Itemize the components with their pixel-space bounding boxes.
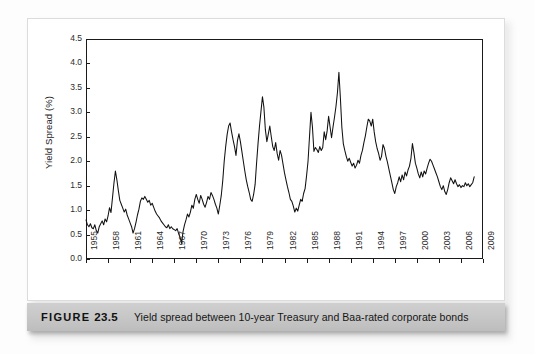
- y-tick-mark: [86, 88, 90, 89]
- figure-container: Yield Spread (%) 0.00.51.01.52.02.53.03.…: [0, 0, 535, 354]
- y-axis-ticks: 0.00.51.01.52.02.53.03.54.04.5: [48, 19, 82, 302]
- x-tick-mark: [285, 259, 286, 263]
- x-tick-mark: [196, 259, 197, 263]
- x-tick-label: 2009: [487, 231, 496, 265]
- x-tick-mark: [351, 259, 352, 263]
- x-tick-label: 1988: [333, 231, 342, 265]
- x-tick-label: 2000: [421, 231, 430, 265]
- x-tick-mark: [461, 259, 462, 263]
- y-tick-label: 3.0: [70, 107, 82, 116]
- x-tick-mark: [373, 259, 374, 263]
- y-tick-mark: [86, 39, 90, 40]
- y-tick-label: 3.5: [70, 83, 82, 92]
- x-tick-mark: [262, 259, 263, 263]
- x-tick-label: 1994: [377, 231, 386, 265]
- x-tick-mark: [152, 259, 153, 263]
- y-tick-mark: [86, 210, 90, 211]
- y-tick-mark: [86, 137, 90, 138]
- y-tick-label: 4.5: [70, 34, 82, 43]
- y-tick-mark: [86, 112, 90, 113]
- x-tick-mark: [417, 259, 418, 263]
- y-tick-label: 4.0: [70, 58, 82, 67]
- x-tick-mark: [174, 259, 175, 263]
- x-tick-label: 1982: [289, 231, 298, 265]
- x-tick-mark: [307, 259, 308, 263]
- x-tick-label: 1967: [178, 231, 187, 265]
- x-tick-mark: [240, 259, 241, 263]
- chart-panel: Yield Spread (%) 0.00.51.01.52.02.53.03.…: [27, 18, 505, 301]
- x-tick-label: 1985: [311, 231, 320, 265]
- y-tick-label: 1.0: [70, 205, 82, 214]
- x-tick-label: 2006: [465, 231, 474, 265]
- series-line-chart: [86, 39, 483, 259]
- caption-text: Yield spread between 10-year Treasury an…: [134, 311, 469, 323]
- x-tick-label: 1964: [156, 231, 165, 265]
- y-tick-mark: [86, 259, 90, 260]
- yield-spread-line: [86, 72, 474, 243]
- y-tick-label: 1.5: [70, 181, 82, 190]
- y-tick-label: 0.0: [70, 254, 82, 263]
- x-tick-mark: [108, 259, 109, 263]
- x-tick-label: 1958: [112, 231, 121, 265]
- x-tick-label: 1961: [134, 231, 143, 265]
- y-tick-label: 2.5: [70, 132, 82, 141]
- x-tick-mark: [439, 259, 440, 263]
- x-tick-label: 1973: [222, 231, 231, 265]
- x-tick-label: 1997: [399, 231, 408, 265]
- x-tick-mark: [218, 259, 219, 263]
- y-tick-mark: [86, 63, 90, 64]
- x-tick-label: 2003: [443, 231, 452, 265]
- y-tick-label: 0.5: [70, 230, 82, 239]
- caption-label: FIGURE: [41, 311, 90, 323]
- y-tick-mark: [86, 186, 90, 187]
- x-tick-label: 1976: [244, 231, 253, 265]
- y-tick-label: 2.0: [70, 156, 82, 165]
- y-tick-mark: [86, 161, 90, 162]
- x-tick-label: 1955: [90, 231, 99, 265]
- x-tick-mark: [483, 259, 484, 263]
- x-tick-mark: [395, 259, 396, 263]
- y-tick-mark: [86, 235, 90, 236]
- x-tick-label: 1991: [355, 231, 364, 265]
- figure-caption-bar: FIGURE 23.5 Yield spread between 10-year…: [27, 303, 505, 331]
- x-tick-label: 1970: [200, 231, 209, 265]
- caption-number: 23.5: [94, 311, 118, 323]
- x-tick-mark: [130, 259, 131, 263]
- chart-area: Yield Spread (%) 0.00.51.01.52.02.53.03.…: [28, 19, 506, 302]
- x-tick-label: 1979: [266, 231, 275, 265]
- x-tick-mark: [329, 259, 330, 263]
